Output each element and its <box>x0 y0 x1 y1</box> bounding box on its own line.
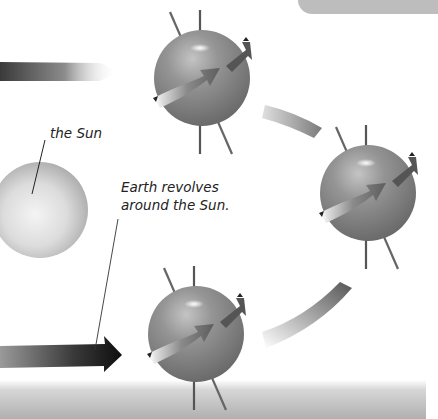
orbit-segment <box>262 105 322 138</box>
earth-leader-line <box>95 219 118 350</box>
sun-label: the Sun <box>50 124 102 142</box>
earth-right <box>319 125 418 269</box>
earth-label: Earth revolves around the Sun. <box>121 178 229 214</box>
orbit-segment <box>262 282 352 348</box>
sun-label-text: the Sun <box>50 125 102 141</box>
floor-band <box>0 380 426 419</box>
earth-label-line1: Earth revolves <box>121 178 229 196</box>
earth-label-line2: around the Sun. <box>121 196 229 214</box>
revolution-arrow <box>0 336 122 372</box>
sun <box>0 162 88 258</box>
orbit-path-band <box>0 62 118 81</box>
earth-top <box>153 10 252 154</box>
